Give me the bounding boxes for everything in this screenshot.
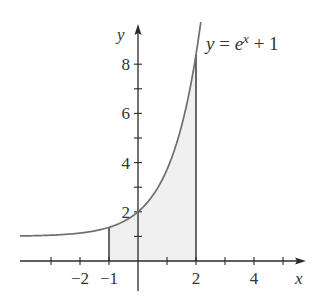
function-label-eq: = xyxy=(214,33,234,54)
function-label: y = ex + 1 xyxy=(204,31,279,54)
function-label-base: e xyxy=(235,33,243,54)
y-tick-label: 2 xyxy=(122,203,131,222)
x-tick-label: 2 xyxy=(192,269,201,288)
x-axis-label: x xyxy=(294,269,303,288)
function-label-rest: + 1 xyxy=(249,33,279,54)
area-under-curve-chart: y x y = ex + 1 −2−1242468 xyxy=(0,0,320,304)
y-tick-label: 8 xyxy=(122,55,131,74)
x-tick-label: −1 xyxy=(100,269,118,288)
function-label-lhs: y xyxy=(204,33,215,54)
x-tick-label: −2 xyxy=(71,269,89,288)
x-tick-label: 4 xyxy=(250,269,259,288)
y-axis-label: y xyxy=(115,25,125,44)
y-tick-label: 4 xyxy=(122,154,131,173)
y-tick-label: 6 xyxy=(122,104,131,123)
